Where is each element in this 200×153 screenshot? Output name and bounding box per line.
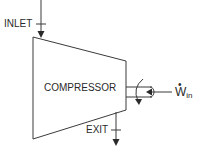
compressor-diagram: INLET EXIT COMPRESSOR •Win [0, 0, 200, 153]
time-rate-dot: • [178, 80, 182, 90]
work-input-label: •Win [175, 86, 193, 98]
inlet-label: INLET [4, 19, 32, 29]
work-input-arrow-icon [146, 89, 172, 96]
exit-label: EXIT [86, 125, 108, 135]
work-subscript: in [186, 91, 192, 100]
compressor-label: COMPRESSOR [44, 83, 116, 93]
rotation-arrow-icon [135, 79, 143, 105]
inlet-arrow-icon [36, 0, 46, 38]
exit-arrow-icon [111, 112, 121, 146]
